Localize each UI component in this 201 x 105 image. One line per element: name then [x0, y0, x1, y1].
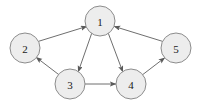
node-5[interactable]: 5 — [161, 33, 191, 63]
node-3-label: 3 — [67, 79, 73, 91]
node-layer: 1 2 3 4 5 — [10, 6, 191, 99]
edge-1-to-4 — [108, 33, 123, 72]
node-4[interactable]: 4 — [116, 69, 146, 99]
node-2[interactable]: 2 — [10, 33, 40, 63]
graph-canvas: 1 2 3 4 5 — [0, 0, 201, 105]
node-2-label: 2 — [22, 43, 28, 55]
node-4-label: 4 — [128, 79, 134, 91]
node-5-label: 5 — [173, 43, 179, 55]
node-1[interactable]: 1 — [85, 6, 115, 36]
edge-1-to-3 — [78, 33, 92, 72]
node-3[interactable]: 3 — [55, 69, 85, 99]
edge-4-to-5 — [143, 58, 165, 75]
directed-graph-figure: 1 2 3 4 5 — [0, 0, 201, 105]
edge-2-to-1 — [39, 26, 87, 41]
edge-3-to-2 — [36, 57, 59, 74]
node-1-label: 1 — [97, 16, 103, 28]
edge-5-to-1 — [114, 26, 162, 41]
